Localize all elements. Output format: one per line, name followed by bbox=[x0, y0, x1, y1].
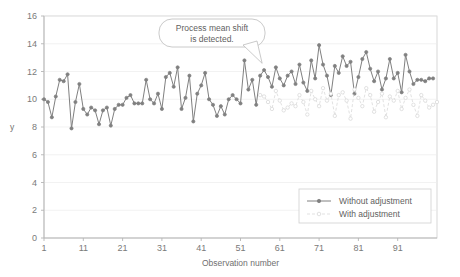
series-marker-1 bbox=[349, 60, 352, 63]
series-marker-2 bbox=[388, 95, 391, 98]
series-marker-2 bbox=[345, 99, 348, 102]
series-marker-1 bbox=[247, 88, 250, 91]
series-marker-1 bbox=[278, 77, 281, 80]
observation-line-chart: 02468101214161112131415161718191Observat… bbox=[0, 0, 460, 277]
series-marker-2 bbox=[361, 104, 364, 107]
series-marker-1 bbox=[231, 93, 234, 96]
series-marker-2 bbox=[400, 107, 403, 110]
series-marker-2 bbox=[262, 95, 265, 98]
series-marker-1 bbox=[58, 78, 61, 81]
x-axis-tick-label: 41 bbox=[196, 243, 206, 253]
series-marker-1 bbox=[105, 106, 108, 109]
series-marker-2 bbox=[294, 104, 297, 107]
series-marker-1 bbox=[90, 106, 93, 109]
series-marker-1 bbox=[286, 74, 289, 77]
series-marker-1 bbox=[149, 98, 152, 101]
series-marker-1 bbox=[180, 107, 183, 110]
series-marker-1 bbox=[282, 84, 285, 87]
x-axis-tick-label: 81 bbox=[353, 243, 363, 253]
series-marker-1 bbox=[204, 71, 207, 74]
series-marker-1 bbox=[82, 107, 85, 110]
series-marker-2 bbox=[270, 107, 273, 110]
chart-container: 02468101214161112131415161718191Observat… bbox=[0, 0, 460, 277]
series-marker-2 bbox=[431, 103, 434, 106]
series-marker-1 bbox=[251, 78, 254, 81]
series-marker-1 bbox=[239, 102, 242, 105]
series-marker-1 bbox=[337, 71, 340, 74]
series-marker-1 bbox=[306, 89, 309, 92]
series-marker-1 bbox=[266, 75, 269, 78]
series-marker-1 bbox=[404, 53, 407, 56]
series-marker-2 bbox=[392, 99, 395, 102]
series-marker-1 bbox=[101, 109, 104, 112]
series-marker-2 bbox=[408, 88, 411, 91]
series-marker-2 bbox=[266, 100, 269, 103]
y-axis-tick-label: 2 bbox=[32, 205, 37, 215]
series-marker-1 bbox=[243, 59, 246, 62]
series-marker-1 bbox=[97, 123, 100, 126]
series-marker-1 bbox=[227, 98, 230, 101]
series-marker-1 bbox=[93, 109, 96, 112]
series-marker-1 bbox=[357, 75, 360, 78]
series-marker-1 bbox=[70, 127, 73, 130]
series-marker-2 bbox=[353, 88, 356, 91]
series-marker-1 bbox=[152, 102, 155, 105]
legend-label-2: With adjustment bbox=[339, 209, 401, 219]
series-marker-1 bbox=[168, 71, 171, 74]
series-marker-2 bbox=[317, 104, 320, 107]
series-marker-1 bbox=[121, 103, 124, 106]
series-marker-1 bbox=[270, 85, 273, 88]
series-marker-2 bbox=[290, 102, 293, 105]
y-axis-tick-label: 14 bbox=[27, 39, 37, 49]
series-marker-1 bbox=[145, 78, 148, 81]
series-marker-1 bbox=[125, 96, 128, 99]
series-marker-1 bbox=[255, 103, 258, 106]
series-marker-1 bbox=[302, 81, 305, 84]
series-marker-1 bbox=[376, 70, 379, 73]
series-marker-1 bbox=[66, 73, 69, 76]
series-marker-1 bbox=[156, 92, 159, 95]
series-marker-1 bbox=[86, 113, 89, 116]
series-marker-1 bbox=[74, 100, 77, 103]
series-marker-2 bbox=[298, 93, 301, 96]
series-marker-1 bbox=[223, 113, 226, 116]
legend-swatch-marker-2 bbox=[317, 212, 321, 216]
y-axis-tick-label: 8 bbox=[32, 122, 37, 132]
series-marker-1 bbox=[274, 66, 277, 69]
x-axis-tick-label: 71 bbox=[314, 243, 324, 253]
series-marker-1 bbox=[141, 102, 144, 105]
annotation-line-1: Process mean shift bbox=[176, 23, 249, 33]
series-marker-2 bbox=[274, 89, 277, 92]
series-marker-1 bbox=[133, 102, 136, 105]
series-marker-2 bbox=[310, 89, 313, 92]
series-marker-2 bbox=[357, 96, 360, 99]
legend-swatch-marker-1 bbox=[317, 199, 320, 202]
series-marker-1 bbox=[341, 55, 344, 58]
series-marker-2 bbox=[380, 92, 383, 95]
series-marker-1 bbox=[396, 71, 399, 74]
series-marker-1 bbox=[54, 95, 57, 98]
series-marker-2 bbox=[306, 113, 309, 116]
series-marker-1 bbox=[431, 77, 434, 80]
series-marker-1 bbox=[188, 74, 191, 77]
series-marker-1 bbox=[298, 63, 301, 66]
x-axis-tick-label: 11 bbox=[79, 243, 88, 253]
series-marker-1 bbox=[196, 92, 199, 95]
series-marker-2 bbox=[376, 100, 379, 103]
series-marker-1 bbox=[290, 70, 293, 73]
series-marker-1 bbox=[428, 77, 431, 80]
series-marker-2 bbox=[420, 93, 423, 96]
series-marker-1 bbox=[172, 85, 175, 88]
series-marker-1 bbox=[46, 100, 49, 103]
y-axis-tick-label: 0 bbox=[32, 233, 37, 243]
series-marker-1 bbox=[325, 74, 328, 77]
series-marker-2 bbox=[416, 114, 419, 117]
series-marker-1 bbox=[318, 44, 321, 47]
series-marker-2 bbox=[412, 103, 415, 106]
x-axis-tick-label: 91 bbox=[393, 243, 403, 253]
series-marker-1 bbox=[192, 120, 195, 123]
series-marker-2 bbox=[384, 116, 387, 119]
series-marker-2 bbox=[333, 114, 336, 117]
series-marker-1 bbox=[333, 64, 336, 67]
series-marker-1 bbox=[388, 57, 391, 60]
